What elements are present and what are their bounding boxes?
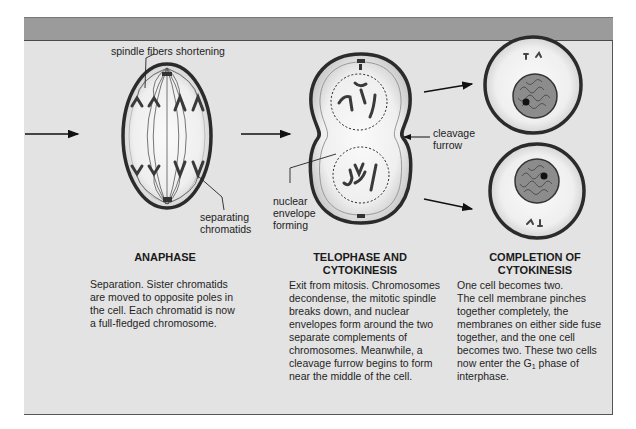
- label-separating-chromatids: separating chromatids: [200, 211, 251, 235]
- desc-line: separate complements of: [289, 331, 440, 344]
- stage-title-telophase: TELOPHASE AND CYTOKINESIS: [290, 251, 430, 277]
- stage-title-completion: COMPLETION OF CYTOKINESIS: [460, 251, 610, 277]
- arrow-to-top-daughter: [424, 84, 472, 92]
- stage-desc-telophase: Exit from mitosis. Chromosomes decondens…: [289, 279, 440, 383]
- desc-line: are moved to opposite poles in: [90, 291, 235, 304]
- stage-title-anaphase: ANAPHASE: [95, 251, 235, 264]
- desc-line: membranes on either side fuse: [457, 318, 601, 331]
- label-nuclear-envelope: nuclear envelope forming: [273, 195, 316, 231]
- title-line: ANAPHASE: [95, 251, 235, 264]
- daughter-cell-bottom: [490, 144, 584, 238]
- label-line: cleavage: [433, 127, 475, 139]
- arrow-to-bottom-daughter: [424, 199, 472, 209]
- anaphase-cell: [123, 54, 224, 210]
- desc-line: cleavage furrow begins to form: [289, 357, 440, 370]
- stage-desc-anaphase: Separation. Sister chromatids are moved …: [90, 278, 235, 330]
- desc-line: chromosomes. Meanwhile, a: [289, 344, 440, 357]
- title-line: TELOPHASE AND: [290, 251, 430, 264]
- desc-line: The cell membrane pinches: [457, 292, 601, 305]
- label-line: nuclear: [273, 195, 316, 207]
- desc-line: breaks down, and nuclear: [289, 305, 440, 318]
- label-line: forming: [273, 219, 316, 231]
- desc-line: near the middle of the cell.: [289, 370, 440, 383]
- label-line: separating: [200, 211, 251, 223]
- desc-line-g1: now enter the G1 phase of: [457, 357, 601, 370]
- label-spindle-fibers: spindle fibers shortening: [111, 45, 225, 57]
- desc-line: together, and the one cell: [457, 331, 601, 344]
- desc-line: becomes two. These two cells: [457, 344, 601, 357]
- daughter-cell-top: [485, 37, 581, 133]
- label-cleavage-furrow: cleavage furrow: [433, 127, 475, 151]
- title-line: COMPLETION OF: [460, 251, 610, 264]
- desc-text: phase of: [536, 357, 579, 369]
- desc-line: Exit from mitosis. Chromosomes: [289, 279, 440, 292]
- title-line: CYTOKINESIS: [460, 264, 610, 277]
- title-line: CYTOKINESIS: [290, 264, 430, 277]
- desc-line: One cell becomes two.: [457, 279, 601, 292]
- desc-line: a full-fledged chromosome.: [90, 317, 235, 330]
- label-line: chromatids: [200, 223, 251, 235]
- stage-desc-completion: One cell becomes two. The cell membrane …: [457, 279, 601, 383]
- desc-line: the cell. Each chromatid is now: [90, 304, 235, 317]
- desc-line: Separation. Sister chromatids: [90, 278, 235, 291]
- desc-line: together completely, the: [457, 305, 601, 318]
- desc-line: decondense, the mitotic spindle: [289, 292, 440, 305]
- label-line: envelope: [273, 207, 316, 219]
- desc-line: envelopes form around the two: [289, 318, 440, 331]
- label-line: furrow: [433, 139, 475, 151]
- desc-text: now enter the G: [457, 357, 532, 369]
- desc-line: interphase.: [457, 370, 601, 383]
